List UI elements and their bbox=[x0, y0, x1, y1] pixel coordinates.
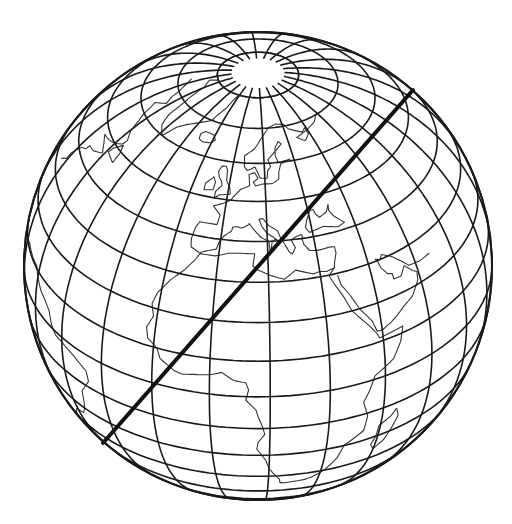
polar-tick bbox=[259, 88, 260, 98]
polar-cap bbox=[217, 52, 298, 97]
polar-tick bbox=[283, 68, 296, 69]
globe-figure bbox=[0, 0, 512, 524]
polar-tick bbox=[256, 52, 257, 58]
globe-diagram bbox=[0, 0, 512, 524]
